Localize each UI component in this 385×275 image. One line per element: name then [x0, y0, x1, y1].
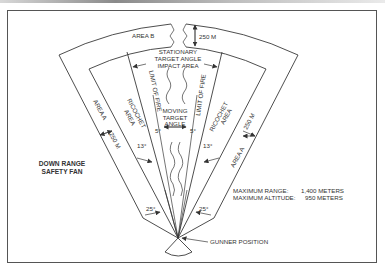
moving-label-3: ANGLE [165, 120, 186, 127]
gunner-position-label: GUNNER POSITION [210, 238, 268, 245]
stationary-label-1: STATIONARY [159, 48, 198, 55]
safety-fan-diagram: AREA B 250 M STATIONARY TARGET ANGLE IMP… [0, 0, 385, 275]
gunner-position-shape [165, 238, 192, 256]
angle-area-a-left: 25° [146, 205, 156, 212]
stationary-label-2: TARGET ANGLE [155, 55, 202, 62]
limit-of-fire-left-label: LIMIT OF FIRE [148, 70, 164, 112]
trajectory-squiggles [166, 68, 187, 196]
area-b-label: AREA B [132, 32, 154, 39]
area-b-depth-label: 250 M [199, 33, 216, 40]
gunner-arrow [182, 238, 208, 242]
angle-moving-right: 5° [190, 127, 196, 134]
angle-ricochet-left: 13° [137, 142, 147, 149]
angle-moving-left: 5° [155, 127, 161, 134]
limit-of-fire-right-label: LIMIT OF FIRE [194, 74, 207, 116]
area-a-right-label: AREA A [229, 145, 246, 168]
max-altitude-label: MAXIMUM ALTITUDE: [233, 194, 296, 201]
angle-area-a-right: 25° [199, 205, 209, 212]
area-a-right-depth-label: 250 M [242, 112, 256, 130]
angle-ricochet-right: 13° [203, 142, 213, 149]
max-altitude-value: 950 METERS [305, 194, 343, 201]
stationary-label-3: IMPACT AREA [157, 62, 199, 69]
title-line-2: SAFETY FAN [42, 168, 83, 175]
area-a-left-depth-label: 250 M [108, 131, 122, 149]
max-range-label: MAXIMUM RANGE: [233, 187, 289, 194]
max-range-value: 1,400 METERS [301, 187, 344, 194]
title-line-1: DOWN RANGE [39, 160, 86, 167]
